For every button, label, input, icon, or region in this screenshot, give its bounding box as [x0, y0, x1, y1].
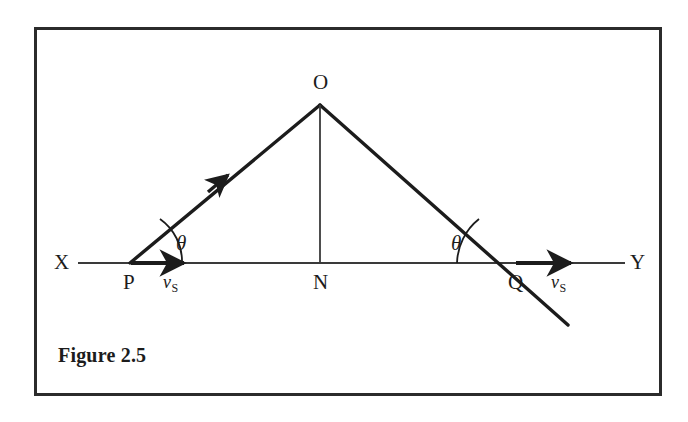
point-label-o: O — [313, 72, 328, 93]
point-label-p: P — [123, 272, 135, 293]
point-label-q: Q — [508, 272, 523, 293]
velocity-label-right: vS — [551, 273, 566, 291]
segment-oq-extended — [320, 105, 568, 325]
velocity-left-subscript: S — [172, 281, 179, 295]
segment-po — [130, 105, 320, 263]
angle-label-theta-right: θ — [451, 233, 461, 254]
figure-page: X Y P N Q O θ θ vS vS Figure 2.5 — [0, 0, 688, 422]
velocity-right-symbol: v — [551, 272, 559, 292]
velocity-label-left: vS — [163, 273, 178, 291]
point-label-n: N — [313, 272, 328, 293]
angle-label-theta-left: θ — [176, 233, 186, 254]
velocity-left-symbol: v — [163, 272, 171, 292]
figure-caption: Figure 2.5 — [58, 344, 146, 367]
axis-label-x: X — [54, 252, 69, 273]
velocity-right-subscript: S — [560, 281, 567, 295]
axis-label-y: Y — [630, 252, 645, 273]
